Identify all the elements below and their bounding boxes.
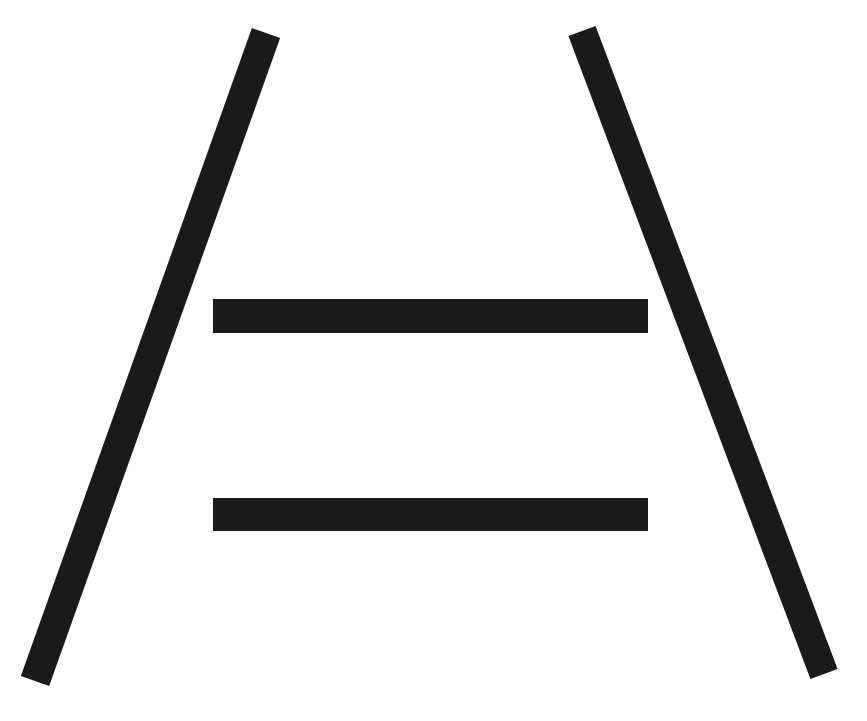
upper-horizontal-bar	[213, 299, 648, 333]
background	[0, 0, 867, 721]
lower-horizontal-bar	[213, 498, 648, 531]
ponzo-illusion-figure	[0, 0, 867, 721]
